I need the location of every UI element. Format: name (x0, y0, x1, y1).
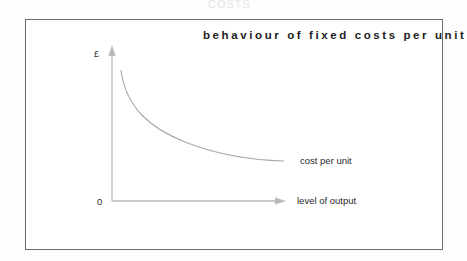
chart-plot-area (0, 0, 467, 261)
origin-label: 0 (97, 196, 102, 207)
y-axis-arrow-icon (109, 45, 116, 56)
x-axis-arrow-icon (275, 198, 286, 205)
x-axis-label: level of output (297, 195, 356, 206)
curve-label: cost per unit (300, 155, 352, 166)
cost-per-unit-curve (121, 70, 284, 161)
y-axis-label: £ (94, 49, 99, 59)
